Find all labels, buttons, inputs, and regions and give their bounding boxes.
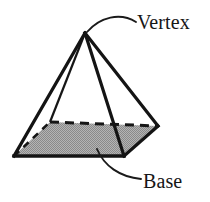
- vertex-label: Vertex: [137, 11, 190, 33]
- pyramid-figure: Vertex Base: [0, 0, 210, 202]
- pyramid-diagram-page: Vertex Base: [0, 0, 210, 202]
- base-label: Base: [143, 170, 182, 192]
